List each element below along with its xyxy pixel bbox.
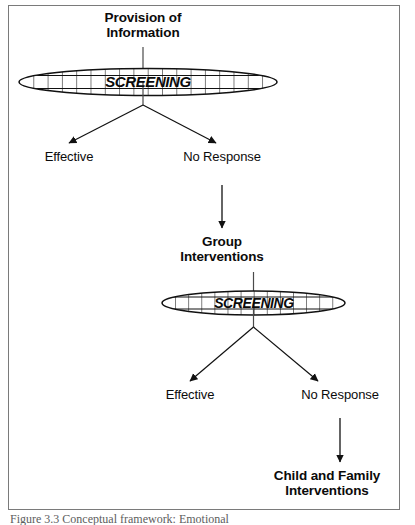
node-group-interventions: Group Interventions [152, 234, 292, 264]
screening-label-one: SCREENING [48, 73, 248, 90]
node-provision-of-information: Provision of Information [63, 10, 223, 40]
node-no-response-two: No Response [284, 388, 396, 403]
node-child-and-family-interventions: Child and Family Interventions [256, 468, 398, 498]
edge-screening-two-to-effective [190, 327, 254, 381]
node-effective-two: Effective [140, 388, 240, 403]
figure-container: Provision of Information SCREENING Effec… [0, 0, 415, 525]
figure-caption: Figure 3.3 Conceptual framework: Emotion… [10, 512, 410, 525]
node-effective-one: Effective [19, 150, 119, 165]
node-no-response-one: No Response [166, 150, 278, 165]
edge-screening-one-to-effective [69, 105, 143, 143]
edge-screening-two-to-no-response [254, 327, 319, 381]
edge-screening-one-to-no-response [143, 105, 216, 143]
screening-label-two: SCREENING [178, 295, 330, 311]
